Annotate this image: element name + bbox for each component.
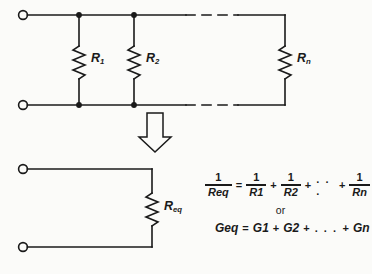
junction-dot-r2-bottom [131,102,137,108]
down-arrow-icon [139,113,171,152]
r2-resistor-symbol [128,46,140,79]
rn-label: Rn [297,52,311,65]
plus-sign-2: + [304,179,312,191]
equals-sign-2: = [241,222,249,234]
g1-term: G1 [253,221,269,235]
r1-resistor-symbol [73,46,85,79]
fraction-1-over-req: 1 Req [205,172,232,198]
rn-resistor-symbol [279,46,291,79]
r1-label: R1 [91,52,104,65]
geq-term: Geq [215,221,238,235]
fraction-1-over-r1: 1 R1 [246,172,266,198]
ellipsis-2: . . . [314,222,339,234]
junction-dot-r1-bottom [76,102,82,108]
equation-reciprocal-sum: 1 Req = 1 R1 + 1 R2 + . . . + 1 [205,172,370,198]
plus-sign-4: + [272,222,280,234]
parallel-resistance-figure: R1 R2 Rn Req 1 Req = 1 R1 + 1 R2 + [0,0,372,274]
g2-term: G2 [283,221,299,235]
equals-sign: = [235,179,243,191]
bottom-circuit-terminal-top-icon [19,165,28,174]
req-resistor-symbol [146,193,158,226]
plus-sign-1: + [269,179,277,191]
gn-term: Gn [353,221,370,235]
top-circuit-terminal-top-icon [19,11,28,20]
fraction-1-over-r2: 1 R2 [281,172,301,198]
plus-sign-5: + [302,222,310,234]
junction-dot-r1-top [76,12,82,18]
equation-connector-or: or [205,204,370,216]
plus-sign-6: + [342,222,350,234]
req-label: Req [164,200,182,213]
fraction-1-over-rn: 1 Rn [349,172,370,198]
ellipsis-1: . . . [315,173,335,197]
plus-sign-3: + [338,179,346,191]
top-circuit-terminal-bottom-icon [19,101,28,110]
bottom-circuit-terminal-bottom-icon [19,243,28,252]
equation-block: 1 Req = 1 R1 + 1 R2 + . . . + 1 [205,172,370,235]
r2-label: R2 [146,52,159,65]
junction-dot-r2-top [131,12,137,18]
equation-conductance-sum: Geq = G1 + G2 + . . . + Gn [205,221,370,235]
